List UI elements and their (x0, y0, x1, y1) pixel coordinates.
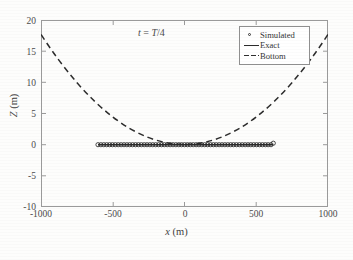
y-axis-title: Z (m) (8, 71, 19, 141)
series-simulated (96, 141, 276, 147)
x-axis-title-symbol: x (165, 226, 170, 237)
legend: Simulated Exact Bottom (239, 26, 310, 65)
y-axis-title-symbol: Z (8, 111, 19, 117)
legend-item-simulated: Simulated (243, 30, 306, 40)
solid-line-icon (243, 40, 260, 50)
y-tick-label: -5 (2, 172, 36, 182)
x-tick-label: 500 (226, 210, 286, 220)
figure: 20 15 10 5 0 -5 -10 -1000 -500 0 500 100… (0, 0, 353, 260)
circle-marker-icon (243, 30, 260, 40)
y-tick-label: 15 (2, 48, 36, 58)
legend-label: Exact (260, 40, 280, 50)
x-tick-label: -1000 (11, 210, 71, 220)
y-tick-label: 20 (2, 17, 36, 27)
x-axis-title: x (m) (0, 226, 353, 237)
time-annotation: t = T/4 (138, 27, 165, 38)
legend-item-exact: Exact (243, 40, 306, 50)
x-tick-label: 1000 (298, 210, 353, 220)
x-tick-label: -500 (83, 210, 143, 220)
legend-label: Bottom (260, 51, 286, 61)
x-tick-label: 0 (155, 210, 215, 220)
annotation-t-symbol: t (138, 27, 141, 38)
y-tick-label: 0 (2, 141, 36, 151)
dashed-line-icon (243, 51, 260, 61)
legend-item-bottom: Bottom (243, 51, 306, 61)
legend-label: Simulated (260, 30, 295, 40)
annotation-T-symbol: T (151, 27, 157, 38)
